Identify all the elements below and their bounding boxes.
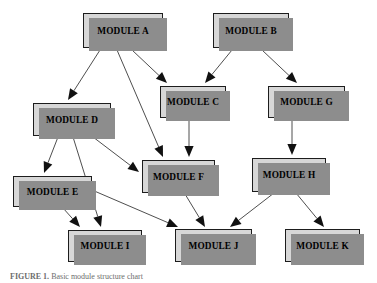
arrowhead-icon — [44, 161, 53, 173]
edge-line — [296, 193, 317, 219]
arrowhead-icon — [184, 146, 193, 157]
arrowhead-icon — [205, 72, 216, 83]
module-node-label: MODULE B — [225, 26, 277, 36]
edge-line — [239, 193, 274, 220]
figure-caption-text: Basic module structure chart — [51, 272, 143, 281]
edge-a-to-f — [117, 50, 163, 157]
module-node-e[interactable]: MODULE E — [13, 176, 92, 207]
figure-number: FIGURE 1. — [10, 272, 49, 281]
module-node-label: MODULE K — [296, 241, 349, 251]
arrowhead-icon — [127, 162, 139, 172]
arrowhead-icon — [230, 217, 242, 227]
edge-line — [48, 137, 58, 163]
module-node-label: MODULE H — [263, 170, 316, 180]
module-node-d[interactable]: MODULE D — [33, 103, 111, 136]
edge-line — [262, 50, 289, 75]
module-node-label: MODULE C — [167, 97, 219, 107]
figure-caption: FIGURE 1. Basic module structure chart — [10, 272, 350, 283]
edge-line — [74, 50, 100, 91]
module-node-a[interactable]: MODULE A — [83, 13, 163, 48]
edge-e-to-i — [63, 208, 80, 227]
module-node-k[interactable]: MODULE K — [285, 229, 360, 262]
module-node-label: MODULE E — [27, 187, 79, 197]
edge-line — [132, 50, 159, 75]
edge-h-to-j — [230, 193, 274, 227]
edge-b-to-g — [262, 50, 297, 83]
module-node-label: MODULE A — [97, 26, 149, 36]
edge-line — [212, 50, 232, 74]
arrowhead-icon — [93, 215, 102, 227]
edge-h-to-k — [296, 193, 324, 227]
edge-a-to-d — [68, 50, 100, 100]
edge-line — [185, 194, 199, 218]
module-node-h[interactable]: MODULE H — [252, 158, 326, 192]
module-node-label: MODULE J — [188, 241, 238, 251]
module-node-g[interactable]: MODULE G — [268, 86, 345, 118]
module-node-label: MODULE I — [81, 241, 130, 251]
module-node-label: MODULE G — [280, 97, 333, 107]
figure-canvas: MODULE AMODULE BMODULE CMODULE GMODULE D… — [0, 0, 377, 283]
edge-d-to-f — [93, 137, 139, 172]
edge-g-to-h — [287, 118, 296, 155]
module-node-c[interactable]: MODULE C — [160, 86, 226, 118]
edge-a-to-c — [132, 50, 167, 83]
module-node-b[interactable]: MODULE B — [213, 13, 289, 48]
edge-line — [93, 137, 130, 165]
edge-b-to-c — [205, 50, 232, 83]
module-node-i[interactable]: MODULE I — [68, 230, 142, 262]
arrowhead-icon — [313, 216, 324, 227]
edge-d-to-e — [44, 137, 58, 173]
module-node-label: MODULE F — [153, 172, 204, 182]
edge-f-to-j — [185, 194, 205, 227]
arrowhead-icon — [195, 215, 205, 227]
edge-c-to-f — [184, 118, 193, 157]
module-node-label: MODULE D — [46, 115, 98, 125]
edge-line — [117, 50, 159, 147]
arrowhead-icon — [68, 88, 78, 100]
arrowhead-icon — [287, 144, 296, 155]
module-node-j[interactable]: MODULE J — [175, 229, 252, 262]
module-node-f[interactable]: MODULE F — [142, 160, 215, 193]
